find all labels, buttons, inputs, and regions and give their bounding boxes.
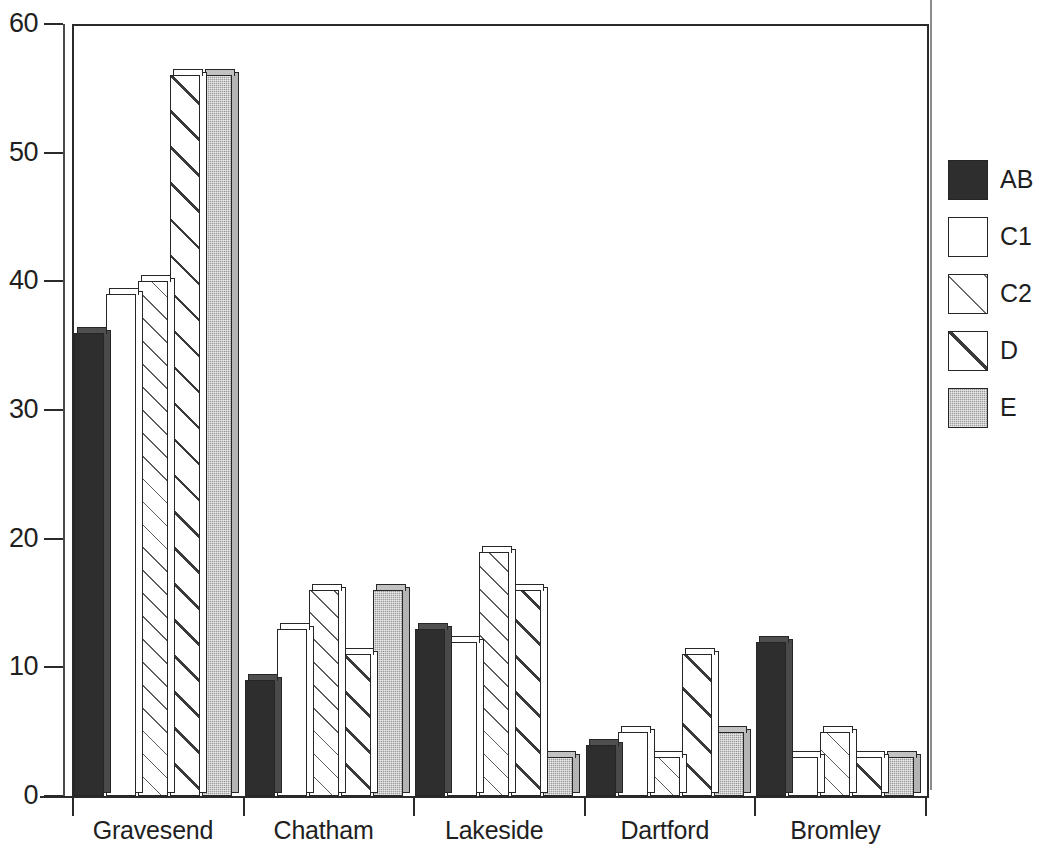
legend-item-e[interactable]: E xyxy=(948,388,1039,436)
legend-label: AB xyxy=(1000,167,1033,192)
legend-item-d[interactable]: D xyxy=(948,331,1039,379)
legend-label: D xyxy=(1000,338,1018,363)
legend-item-c1[interactable]: C1 xyxy=(948,217,1039,265)
legend-label: C2 xyxy=(1000,281,1032,306)
bar-side-3d xyxy=(680,754,687,793)
bar-side-3d xyxy=(307,626,314,793)
bar-dartford-ab xyxy=(586,745,616,796)
bar-side-3d xyxy=(616,742,623,793)
bar-side-3d xyxy=(104,330,111,793)
bar-side-3d xyxy=(818,754,825,793)
bar-side-3d xyxy=(573,754,580,793)
bar-gravesend-ab xyxy=(74,333,104,796)
bar-face xyxy=(245,680,275,796)
bar-side-3d xyxy=(882,754,889,793)
bar-side-3d xyxy=(648,729,655,793)
bar-side-3d xyxy=(136,291,143,793)
bar-side-3d xyxy=(850,729,857,793)
bar-side-3d xyxy=(914,754,921,793)
bar-face xyxy=(756,642,786,796)
bar-side-3d xyxy=(200,72,207,793)
bar-side-3d xyxy=(275,677,282,793)
bar-side-3d xyxy=(509,549,516,793)
thin-hatch-swatch xyxy=(948,274,988,314)
bars-layer xyxy=(0,0,1039,851)
bar-lakeside-ab xyxy=(415,629,445,796)
legend-item-c2[interactable]: C2 xyxy=(948,274,1039,322)
bar-side-3d xyxy=(371,651,378,793)
bar-bromley-ab xyxy=(756,642,786,796)
bar-chatham-ab xyxy=(245,680,275,796)
legend-label: C1 xyxy=(1000,224,1032,249)
empty-white-swatch xyxy=(948,217,988,257)
solid-dark-swatch xyxy=(948,160,988,200)
bar-side-3d xyxy=(445,626,452,793)
legend-divider-rule xyxy=(930,0,932,790)
bar-side-3d xyxy=(232,72,239,793)
bar-side-3d xyxy=(786,639,793,793)
bar-side-3d xyxy=(477,639,484,793)
gray-stipple-swatch xyxy=(948,388,988,428)
legend-label: E xyxy=(1000,395,1017,420)
bar-chart: 6050403020100 GravesendChathamLakesideDa… xyxy=(0,0,1039,851)
legend-item-ab[interactable]: AB xyxy=(948,160,1039,208)
bar-side-3d xyxy=(403,587,410,793)
bar-side-3d xyxy=(339,587,346,793)
bar-side-3d xyxy=(541,587,548,793)
bar-face xyxy=(586,745,616,796)
bar-side-3d xyxy=(712,651,719,793)
bar-face xyxy=(74,333,104,796)
bold-hatch-swatch xyxy=(948,331,988,371)
legend: ABC1C2DE xyxy=(930,160,1039,450)
bar-side-3d xyxy=(168,278,175,793)
bar-face xyxy=(415,629,445,796)
bar-side-3d xyxy=(744,729,751,793)
